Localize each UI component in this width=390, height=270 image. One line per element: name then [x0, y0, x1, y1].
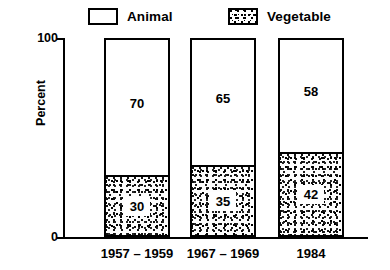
y-axis-title: Percent [34, 68, 48, 138]
y-axis-tick-0: 0 [24, 230, 58, 244]
bar-1967-1969: 65 35 [190, 38, 256, 237]
bar-1957-1959: 70 30 [104, 38, 170, 237]
bar-segment-animal: 58 [280, 40, 342, 154]
y-axis-line [63, 38, 65, 238]
bar-segment-value-vegetable: 30 [125, 198, 149, 215]
bar-segment-vegetable: 42 [280, 154, 342, 235]
bar-segment-value-vegetable: 42 [299, 186, 323, 203]
bar-segment-animal: 70 [106, 40, 168, 177]
bar-segment-animal: 65 [192, 40, 254, 167]
bar-segment-value-vegetable: 35 [211, 193, 235, 210]
bar-segment-value-animal: 58 [304, 85, 318, 98]
plot-area: Percent 100 0 70 30 65 35 [0, 0, 390, 270]
bar-1984: 58 42 [278, 38, 344, 237]
bar-segment-value-animal: 65 [216, 92, 230, 105]
x-axis-line [63, 237, 368, 239]
bar-segment-vegetable: 30 [106, 177, 168, 235]
bar-segment-value-animal: 70 [130, 97, 144, 110]
stacked-bar-chart: Animal Vegetable Percent 100 0 70 30 65 [0, 0, 390, 270]
y-axis-tick-100: 100 [24, 31, 58, 45]
x-axis-label-3: 1984 [256, 246, 366, 261]
bar-segment-vegetable: 35 [192, 167, 254, 235]
